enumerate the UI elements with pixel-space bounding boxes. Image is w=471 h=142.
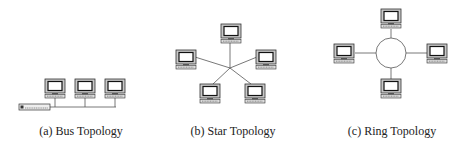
topology-diagram (0, 0, 471, 142)
caption-bus: (a) Bus Topology (39, 124, 123, 139)
computer-icon (105, 79, 125, 98)
caption-star: (b) Star Topology (191, 124, 276, 139)
ring-topology (334, 9, 447, 98)
computer-icon (334, 44, 354, 63)
bus-topology (19, 79, 125, 110)
star-topology (176, 24, 276, 103)
computer-icon (221, 24, 241, 43)
computer-icon (245, 84, 265, 103)
ring-circle (376, 38, 406, 68)
bus-terminator (19, 104, 50, 110)
computer-icon (381, 79, 401, 98)
computer-icon (200, 84, 220, 103)
computer-icon (75, 79, 95, 98)
caption-ring: (c) Ring Topology (348, 124, 436, 139)
computer-icon (381, 9, 401, 28)
computer-icon (256, 50, 276, 69)
computer-icon (45, 79, 65, 98)
computer-icon (176, 50, 196, 69)
computer-icon (427, 44, 447, 63)
